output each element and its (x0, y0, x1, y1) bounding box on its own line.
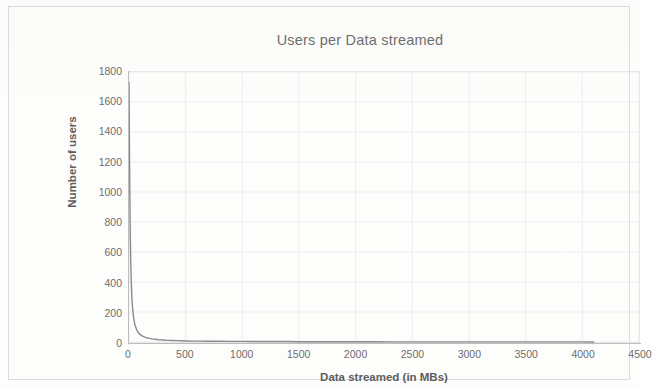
y-axis-line (128, 71, 129, 344)
y-tick-label: 600 (78, 246, 122, 258)
x-axis-line (128, 343, 641, 344)
x-axis-tick-labels: 050010001500200025003000350040004500 (128, 348, 640, 364)
y-axis-title: Number of users (66, 92, 78, 232)
chart-title: Users per Data streamed (40, 32, 656, 48)
x-tick-label: 4500 (610, 348, 656, 360)
y-tick-label: 1400 (78, 125, 122, 137)
plot-area (128, 71, 640, 343)
x-tick-label: 2000 (326, 348, 386, 360)
x-tick-label: 500 (155, 348, 215, 360)
line-chart: Users per Data streamed 0200400600800100… (40, 16, 600, 372)
x-axis-title: Data streamed (in MBs) (128, 371, 640, 383)
y-tick-label: 400 (78, 277, 122, 289)
x-tick-label: 1000 (212, 348, 272, 360)
x-tick-label: 4000 (553, 348, 613, 360)
x-tick-label: 0 (98, 348, 158, 360)
x-tick-label: 2500 (382, 348, 442, 360)
data-series-line (129, 72, 639, 342)
x-tick-label: 3000 (439, 348, 499, 360)
x-tick-label: 3500 (496, 348, 556, 360)
y-tick-label: 1200 (78, 156, 122, 168)
x-tick-label: 1500 (269, 348, 329, 360)
y-tick-label: 1800 (78, 65, 122, 77)
y-tick-label: 1000 (78, 186, 122, 198)
y-axis-tick-labels: 020040060080010001200140016001800 (74, 71, 122, 343)
y-tick-label: 200 (78, 307, 122, 319)
y-tick-label: 800 (78, 216, 122, 228)
y-tick-label: 1600 (78, 95, 122, 107)
